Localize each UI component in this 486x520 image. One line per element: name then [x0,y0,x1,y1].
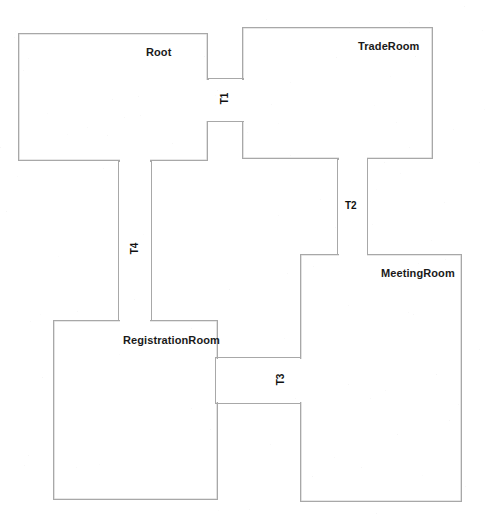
wall-opening [206,80,211,121]
corridor-label-t2: T2 [345,200,357,211]
room-label-registration-room: RegistrationRoom [123,334,220,346]
wall-opening [339,252,367,257]
wall-opening [339,157,367,162]
room-registration-room [53,320,218,500]
room-label-meeting-room: MeetingRoom [381,267,455,279]
corridor-label-t4: T4 [129,243,140,255]
room-label-root: Root [146,46,171,58]
wall-opening [120,318,150,323]
corridor-t3 [215,357,301,404]
room-root [18,33,208,161]
room-label-trade-room: TradeRoom [358,40,419,52]
corridor-label-t3: T3 [275,374,286,386]
wall-opening [241,80,246,121]
wall-opening [120,159,150,164]
wall-opening [216,359,220,402]
corridor-t4 [118,161,152,321]
corridor-label-t1: T1 [219,93,230,105]
room-meeting-room [300,254,462,502]
floorplan-diagram: Root TradeRoom RegistrationRoom MeetingR… [0,0,486,520]
wall-opening [298,359,303,402]
